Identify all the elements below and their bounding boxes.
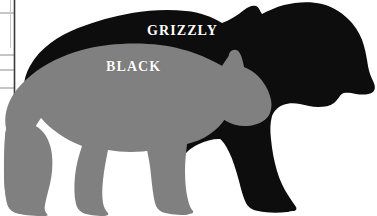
black-bear-hind-leg-path	[4, 123, 52, 216]
figure-canvas: GRIZZLY BLACK	[0, 0, 377, 216]
black-bear-label: BLACK	[106, 59, 161, 75]
black-bear-ear-path	[229, 50, 243, 65]
grizzly-label: GRIZZLY	[147, 23, 218, 39]
